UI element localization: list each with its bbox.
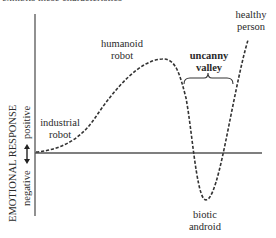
label-line: robot bbox=[40, 129, 80, 141]
label-line: valley bbox=[190, 62, 229, 74]
y-positive-label: positive bbox=[21, 106, 32, 139]
label-biotic-android: biotic android bbox=[189, 209, 221, 233]
label-uncanny-valley: uncanny valley bbox=[190, 50, 229, 74]
label-line: humanoid bbox=[101, 38, 143, 50]
y-axis-title: EMOTIONAL RESPONSE bbox=[7, 105, 18, 222]
label-line: uncanny bbox=[190, 50, 229, 62]
double-arrow-icon bbox=[24, 144, 30, 164]
label-line: biotic bbox=[189, 209, 221, 221]
label-line: robot bbox=[101, 50, 143, 62]
label-humanoid-robot: humanoid robot bbox=[101, 38, 143, 62]
label-healthy-person: healthy person bbox=[236, 9, 267, 33]
valley-bracket bbox=[184, 73, 233, 84]
label-industrial-robot: industrial robot bbox=[40, 117, 80, 141]
label-line: android bbox=[189, 221, 221, 233]
y-negative-label: negative bbox=[21, 170, 32, 206]
label-line: healthy bbox=[236, 9, 267, 21]
label-line: industrial bbox=[40, 117, 80, 129]
label-line: person bbox=[236, 21, 267, 33]
